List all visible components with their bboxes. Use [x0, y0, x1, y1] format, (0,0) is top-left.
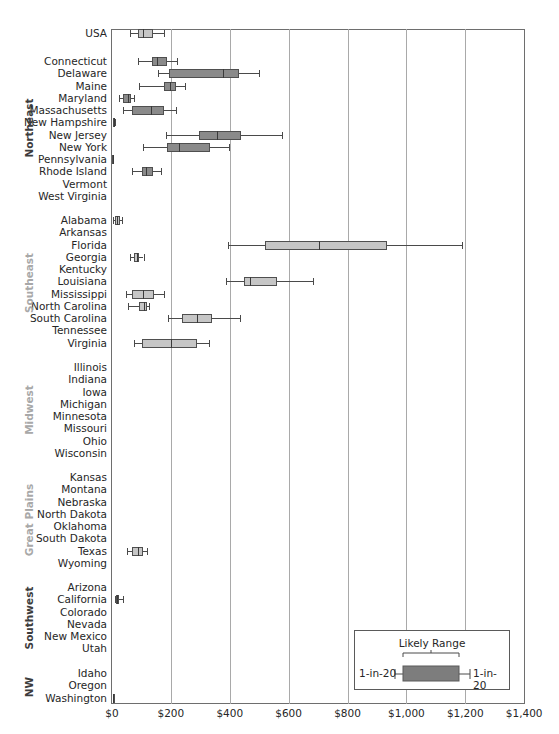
median-line: [197, 314, 198, 323]
whisker-cap-high: [161, 168, 162, 175]
row-label: New Hampshire: [24, 116, 107, 128]
whisker-cap-high: [209, 340, 210, 347]
median-line: [151, 106, 152, 115]
row-label: Pennsylvania: [38, 153, 107, 165]
row-label: Michigan: [60, 398, 107, 410]
whisker-cap-high: [134, 95, 135, 102]
gridline: [289, 29, 290, 704]
row-label: New Jersey: [49, 129, 107, 141]
row-label: North Carolina: [31, 300, 107, 312]
whisker-cap-high: [123, 596, 124, 603]
row-label: Maine: [75, 80, 107, 92]
row-label: Tennessee: [52, 324, 107, 336]
median-line: [114, 118, 115, 127]
legend-left-label: 1-in-20: [359, 667, 396, 679]
x-tick-label: $200: [158, 707, 185, 719]
row-label: Delaware: [58, 67, 107, 79]
likely-range-box: [152, 57, 167, 66]
row-label: South Dakota: [36, 532, 107, 544]
row-label: Arkansas: [59, 226, 107, 238]
whisker-cap-high: [229, 144, 230, 151]
whisker-cap-high: [122, 217, 123, 224]
x-tick-label: $1,000: [388, 707, 425, 719]
whisker-cap-high: [259, 70, 260, 77]
row-label: Missouri: [64, 422, 107, 434]
median-line: [217, 131, 218, 140]
row-label: West Virginia: [38, 190, 107, 202]
legend: Likely Range 1-in-20 1-in-20: [354, 630, 510, 690]
median-line: [179, 143, 180, 152]
likely-range-box: [199, 131, 241, 140]
whisker-cap-low: [138, 58, 139, 65]
row-label: Wisconsin: [55, 447, 107, 459]
row-label: Massachusetts: [29, 104, 107, 116]
x-tick-label: $600: [275, 707, 302, 719]
gridline: [171, 29, 172, 704]
median-line: [113, 155, 114, 164]
median-line: [113, 694, 114, 703]
median-line: [128, 94, 129, 103]
row-label: Ohio: [83, 435, 107, 447]
median-line: [143, 290, 144, 299]
whisker-cap-low: [228, 242, 229, 249]
median-line: [117, 595, 118, 604]
row-label: Georgia: [66, 251, 107, 263]
likely-range-box: [132, 106, 164, 115]
region-label: Southwest: [23, 587, 35, 650]
median-line: [319, 241, 320, 250]
row-label: Iowa: [82, 386, 107, 398]
whisker-cap-high: [282, 132, 283, 139]
likely-range-box: [244, 277, 277, 286]
whisker-cap-low: [127, 548, 128, 555]
whisker-cap-low: [168, 315, 169, 322]
row-label: South Carolina: [30, 312, 107, 324]
row-label: Arizona: [68, 581, 107, 593]
whisker-cap-low: [126, 291, 127, 298]
whisker-cap-high: [176, 107, 177, 114]
whisker-cap-low: [132, 168, 133, 175]
row-label: Montana: [61, 483, 107, 495]
median-line: [157, 57, 158, 66]
likely-range-box: [167, 143, 211, 152]
likely-range-box: [138, 29, 153, 38]
region-label: Great Plains: [23, 484, 35, 556]
row-label: New Mexico: [44, 630, 107, 642]
whisker-cap-high: [185, 83, 186, 90]
whisker-cap-high: [164, 30, 165, 37]
whisker-cap-high: [147, 548, 148, 555]
row-label: New York: [59, 141, 107, 153]
likely-range-box: [265, 241, 387, 250]
row-label: Nebraska: [57, 496, 107, 508]
row-label: Nevada: [67, 618, 107, 630]
median-line: [143, 29, 144, 38]
gridline: [348, 29, 349, 704]
likely-range-box: [169, 69, 239, 78]
row-label: Washington: [45, 692, 107, 704]
median-line: [146, 167, 147, 176]
median-line: [137, 253, 138, 262]
row-label: Oklahoma: [54, 520, 107, 532]
row-label: California: [57, 593, 107, 605]
median-line: [170, 82, 171, 91]
row-label: Maryland: [58, 92, 107, 104]
whisker-line: [139, 86, 185, 87]
whisker-cap-high: [149, 303, 150, 310]
row-label: Oregon: [68, 679, 107, 691]
whisker-cap-low: [226, 278, 227, 285]
region-label: Midwest: [23, 385, 35, 435]
row-label: Connecticut: [44, 55, 107, 67]
x-tick-label: $400: [216, 707, 243, 719]
plot-area: [111, 29, 525, 704]
whisker-cap-low: [143, 144, 144, 151]
x-tick-label: $1,200: [447, 707, 484, 719]
row-label: Vermont: [63, 178, 107, 190]
whisker-cap-low: [123, 107, 124, 114]
median-line: [144, 302, 145, 311]
box-plot-chart: USAConnecticutDelawareMaineMarylandMassa…: [0, 0, 559, 734]
row-label: Wyoming: [58, 557, 107, 569]
row-label: Alabama: [61, 214, 107, 226]
row-label: Utah: [82, 642, 107, 654]
row-label: Florida: [71, 239, 107, 251]
region-label: Southeast: [23, 253, 35, 313]
whisker-cap-high: [240, 315, 241, 322]
